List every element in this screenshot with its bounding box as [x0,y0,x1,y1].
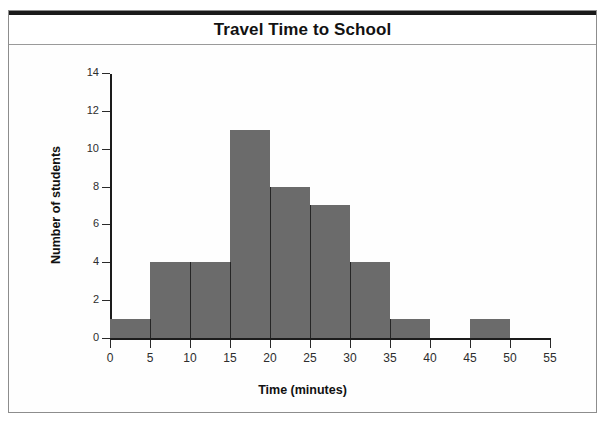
x-axis-tick-label: 5 [136,351,164,365]
y-axis-tick [102,338,110,339]
y-axis-title: Number of students [49,146,63,264]
x-axis-tick [510,340,511,348]
y-axis-tick [102,224,110,225]
chart-figure-frame: Travel Time to School 02468101214 051015… [8,10,597,413]
y-axis-tick-label: 0 [77,331,99,343]
x-axis-tick-label: 15 [216,351,244,365]
page-title: Travel Time to School [214,20,392,40]
histogram-bar [350,262,390,338]
x-axis-tick-label: 30 [336,351,364,365]
x-axis-tick-label: 35 [376,351,404,365]
x-axis-title: Time (minutes) [9,383,596,397]
histogram-bar [310,205,350,338]
x-axis-tick [430,340,431,348]
x-axis-tick [470,340,471,348]
y-axis-tick [102,149,110,150]
bin-divider [190,262,191,338]
histogram-bar [110,319,150,338]
axes-layer: 02468101214 0510152025303540455055 Numbe… [9,45,596,412]
histogram-bar [230,130,270,338]
bin-divider [230,262,231,338]
y-axis-tick-label: 8 [77,180,99,192]
y-axis-tick [102,111,110,112]
bin-divider [150,319,151,338]
x-axis-tick-label: 55 [536,351,564,365]
bin-divider [350,262,351,338]
histogram-bar [470,319,510,338]
x-axis-tick-label: 10 [176,351,204,365]
histogram-bar [150,262,190,338]
x-axis-tick [550,340,551,348]
plot-area: 02468101214 0510152025303540455055 Numbe… [9,45,596,412]
x-axis-line [110,338,551,340]
x-axis-tick [270,340,271,348]
bin-divider [310,205,311,338]
x-axis-tick [350,340,351,348]
x-axis-tick-label: 40 [416,351,444,365]
x-axis-tick [110,340,111,348]
y-axis-tick-label: 12 [77,104,99,116]
chart-title-bar: Travel Time to School [9,15,596,44]
y-axis-tick [102,187,110,188]
y-axis-tick-label: 14 [77,66,99,78]
x-axis-tick-label: 50 [496,351,524,365]
y-axis-tick [102,73,110,74]
histogram-bar [270,187,310,338]
x-axis-tick [310,340,311,348]
histogram-bar [190,262,230,338]
bin-divider [390,319,391,338]
x-axis-tick [390,340,391,348]
histogram-bar [390,319,430,338]
x-axis-tick [190,340,191,348]
y-axis-tick-label: 2 [77,293,99,305]
x-axis-tick-label: 45 [456,351,484,365]
bin-divider [270,187,271,338]
y-axis-line [110,74,112,340]
x-axis-tick [150,340,151,348]
y-axis-tick-label: 6 [77,217,99,229]
y-axis-tick-label: 4 [77,255,99,267]
y-axis-tick [102,262,110,263]
y-axis-tick [102,300,110,301]
x-axis-tick-label: 0 [96,351,124,365]
x-axis-tick-label: 20 [256,351,284,365]
x-axis-tick-label: 25 [296,351,324,365]
x-axis-tick [230,340,231,348]
y-axis-tick-label: 10 [77,142,99,154]
